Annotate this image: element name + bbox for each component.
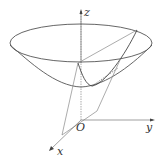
- z-arrow-icon: [80, 9, 83, 14]
- paraboloid-diagram: z y x O: [0, 0, 163, 161]
- x-axis-label: x: [57, 145, 64, 158]
- right-slant-line: [97, 60, 120, 111]
- origin-label: O: [76, 121, 85, 134]
- y-axis-label: y: [145, 121, 153, 134]
- z-axis-label: z: [83, 6, 90, 19]
- dashed-line: [92, 68, 118, 86]
